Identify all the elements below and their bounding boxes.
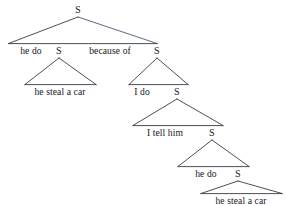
root-triangle-left-edge [9, 17, 79, 44]
right-embedded-triangle-3 [178, 140, 249, 167]
terminal-he-steal-a-car-bottom: he steal a car [215, 195, 266, 206]
right-embedded-triangle-4-right-edge [238, 181, 282, 194]
right-embedded-triangle-1-right-edge [157, 58, 188, 85]
terminal-i-tell-him: I tell him [147, 127, 183, 138]
right-embedded-triangle-2-right-edge [177, 99, 223, 126]
right-embedded-triangle-2-left-edge [133, 99, 177, 126]
terminal-he-steal-a-car-left: he steal a car [34, 86, 85, 97]
right-embedded-triangle-3-right-edge [212, 140, 249, 167]
left-embedded-triangle-right-edge [59, 58, 96, 85]
root-triangle [9, 17, 158, 44]
node-s-level5: S [235, 168, 241, 179]
terminal-he-do-level4: he do [195, 168, 217, 179]
node-root-s: S [75, 4, 81, 15]
syntax-tree-canvas [0, 0, 286, 206]
terminal-he-do-level1: he do [20, 45, 42, 56]
terminal-because-of: because of [89, 45, 131, 56]
root-triangle-right-edge [78, 17, 157, 44]
right-embedded-triangle-4-left-edge [201, 181, 238, 194]
right-embedded-triangle-2 [133, 99, 223, 126]
right-embedded-triangle-1-left-edge [129, 58, 157, 85]
node-s-level3: S [174, 86, 180, 97]
right-embedded-triangle-3-left-edge [178, 140, 212, 167]
left-embedded-triangle-left-edge [25, 58, 59, 85]
node-s-left-embedded: S [56, 45, 62, 56]
left-embedded-triangle [25, 58, 96, 85]
node-s-level4: S [209, 127, 215, 138]
syntax-tree-figure: S he do S because of S he steal a car I … [0, 0, 286, 206]
node-s-right-embedded: S [154, 45, 160, 56]
right-embedded-triangle-1 [129, 58, 188, 85]
terminal-i-do: I do [134, 86, 150, 97]
right-embedded-triangle-4 [201, 181, 282, 194]
